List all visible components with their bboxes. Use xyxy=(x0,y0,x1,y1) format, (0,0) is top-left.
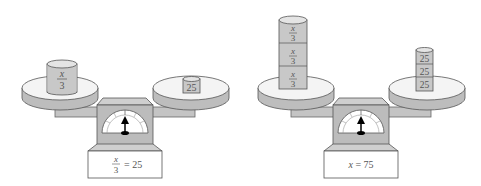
svg-text:3: 3 xyxy=(291,56,296,66)
scale-1: x 3 25 x 3 = 25 xyxy=(22,60,229,178)
equation-2: x = 75 xyxy=(347,159,373,170)
weight-label: 25 xyxy=(187,82,197,93)
svg-text:25: 25 xyxy=(420,80,430,90)
svg-text:3: 3 xyxy=(114,165,119,175)
stacked-weights-25: 25 25 25 xyxy=(416,48,433,92)
svg-text:x = 75: x = 75 xyxy=(347,159,373,170)
svg-text:25: 25 xyxy=(420,54,430,64)
balance-diagram: x 3 25 x 3 = 25 x 3 x 3 x xyxy=(0,0,481,186)
svg-text:= 25: = 25 xyxy=(124,159,142,170)
svg-text:x: x xyxy=(290,69,295,79)
svg-text:3: 3 xyxy=(291,79,296,89)
fraction-denominator: 3 xyxy=(60,80,65,91)
svg-text:x: x xyxy=(290,46,295,56)
weight-25: 25 xyxy=(183,77,200,94)
svg-text:3: 3 xyxy=(291,33,296,43)
cylinder-x-over-3: x 3 xyxy=(47,60,77,95)
scale-2: x 3 x 3 x 3 25 25 25 x = 75 xyxy=(258,16,465,178)
stacked-cylinders-x-over-3: x 3 x 3 x 3 xyxy=(279,16,307,89)
svg-text:x: x xyxy=(113,154,118,164)
svg-text:x: x xyxy=(290,23,295,33)
fraction-numerator: x xyxy=(59,68,65,79)
svg-text:25: 25 xyxy=(420,67,430,77)
